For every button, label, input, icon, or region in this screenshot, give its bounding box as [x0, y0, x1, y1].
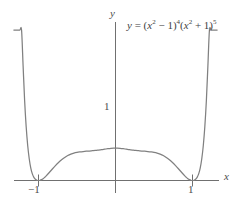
x-tick-label-neg-one: −1 — [28, 183, 40, 195]
function-graph-figure: y x 1 −1 1 y = (x2 − 1)4(x2 + 1)5 — [0, 0, 244, 211]
y-tick-label-one: 1 — [104, 100, 110, 112]
equation-base-2-exponent: 2 — [189, 18, 193, 26]
equation-base-1-exponent: 2 — [152, 18, 156, 26]
graph-canvas — [0, 0, 244, 211]
equation-plus: + — [195, 19, 201, 31]
equation-equals: = — [135, 19, 141, 31]
equation-minus: − — [158, 19, 164, 31]
equation-annotation: y = (x2 − 1)4(x2 + 1)5 — [127, 18, 217, 31]
x-tick-label-pos-one: 1 — [188, 183, 194, 195]
equation-power-2: 5 — [213, 18, 217, 26]
x-axis-label: x — [224, 170, 229, 182]
y-axis-label: y — [110, 7, 115, 19]
equation-lhs: y — [127, 19, 132, 31]
